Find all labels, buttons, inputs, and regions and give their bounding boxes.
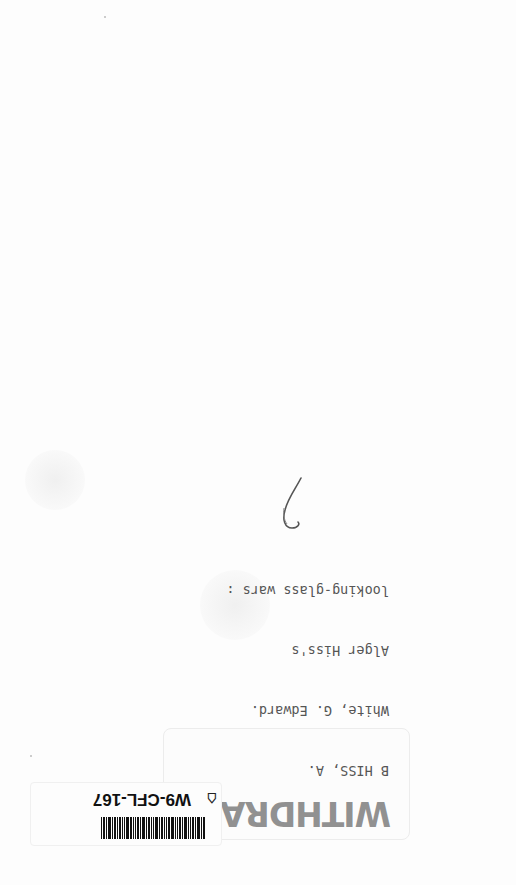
label-line: B HISS, A. [226, 761, 389, 781]
stray-mark [30, 755, 32, 757]
tag-icon: ⌂ [206, 789, 217, 810]
label-line: looking-glass wars : [226, 581, 389, 601]
label-line: White, G. Edward. [226, 701, 389, 721]
barcode [55, 817, 205, 839]
book-page: WITHDRAWN B HISS, A. White, G. Edward. A… [0, 0, 516, 885]
barcode-sticker: ⌂ W9-CFL-167 [30, 782, 222, 846]
label-line: Alger Hiss's [226, 641, 389, 661]
stray-mark [104, 16, 106, 18]
handwritten-mark [268, 470, 318, 540]
paper-smudge [25, 450, 85, 510]
barcode-id: W9-CFL-167 [93, 789, 191, 809]
catalog-text: B HISS, A. White, G. Edward. Alger Hiss'… [226, 541, 389, 821]
